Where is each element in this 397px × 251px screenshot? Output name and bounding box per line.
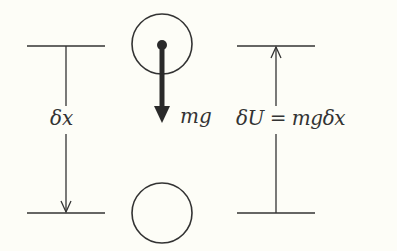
mass-final-circle bbox=[132, 183, 192, 243]
gravity-force-arrowhead-icon bbox=[154, 106, 170, 123]
potential-energy-label: δU = mgδx bbox=[236, 108, 345, 128]
displacement-label: δx bbox=[50, 108, 73, 128]
force-label: mg bbox=[180, 106, 212, 126]
